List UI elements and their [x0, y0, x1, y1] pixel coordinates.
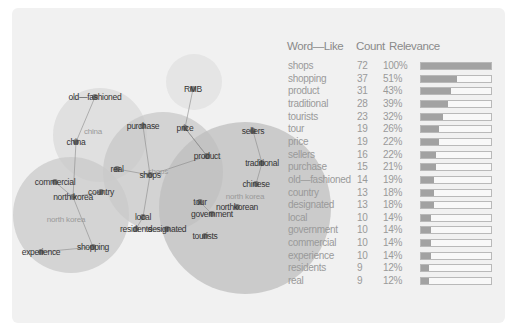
word-cell: designated	[288, 199, 334, 210]
word-cell: real	[288, 275, 303, 286]
relevance-cell: 14%	[383, 224, 402, 235]
relevance-cell: 14%	[383, 237, 402, 248]
word-cell: experience	[288, 250, 334, 261]
node-chinese[interactable]: chinese	[242, 179, 270, 189]
word-cell: product	[288, 85, 319, 96]
relevance-bar	[420, 100, 492, 108]
node-country[interactable]: country	[88, 187, 115, 197]
relevance-bar-fill	[421, 164, 436, 170]
relevance-cell: 22%	[383, 149, 402, 160]
word-cell: traditional	[288, 98, 328, 109]
relevance-bar-fill	[421, 227, 431, 233]
node-label: price	[177, 123, 194, 133]
count-cell: 14	[357, 174, 368, 185]
node-tourists[interactable]: tourists	[193, 231, 218, 241]
count-cell: 72	[357, 60, 368, 71]
cluster-label: north korea	[47, 215, 86, 224]
node-label: product	[194, 151, 221, 161]
relevance-bar-fill	[421, 265, 429, 271]
word-cell: purchase	[288, 161, 327, 172]
node-label: designated	[148, 224, 187, 234]
word-cell: shops	[288, 60, 313, 71]
cluster-circles	[13, 54, 331, 294]
node-local[interactable]: local	[135, 212, 151, 222]
word-cell: sellers	[288, 149, 315, 160]
node-tour[interactable]: tour	[193, 197, 207, 207]
relevance-bar	[420, 252, 492, 260]
count-cell: 16	[357, 149, 368, 160]
node-shopping[interactable]: shopping	[77, 242, 110, 252]
count-cell: 10	[357, 224, 368, 235]
relevance-cell: 21%	[383, 161, 402, 172]
count-cell: 10	[357, 237, 368, 248]
relevance-bar	[420, 239, 492, 247]
relevance-bar-fill	[421, 215, 431, 221]
node-government[interactable]: government	[191, 209, 234, 219]
node-sellers[interactable]: sellers	[242, 126, 265, 136]
relevance-bar-fill	[421, 240, 431, 246]
node-china[interactable]: china	[67, 137, 86, 147]
relevance-bar	[420, 163, 492, 171]
word-cell: government	[288, 224, 338, 235]
node-purchase[interactable]: purchase	[127, 121, 160, 131]
table-row: traditional2839%	[287, 98, 502, 110]
table-row: price1922%	[287, 136, 502, 148]
relevance-bar-fill	[421, 63, 491, 69]
node-experience[interactable]: experience	[22, 247, 61, 257]
node-shops[interactable]: shops	[139, 170, 160, 180]
relevance-cell: 43%	[383, 85, 402, 96]
relevance-cell: 14%	[383, 250, 402, 261]
count-cell: 10	[357, 250, 368, 261]
relevance-cell: 18%	[383, 199, 402, 210]
relevance-bar-fill	[421, 152, 436, 158]
node-old-fashioned[interactable]: old—fashioned	[69, 92, 122, 102]
relevance-bar	[420, 277, 492, 285]
relevance-bar	[420, 113, 492, 121]
node-label: china	[67, 137, 86, 147]
relevance-cell: 51%	[383, 73, 402, 84]
relevance-bar	[420, 62, 492, 70]
relevance-cell: 12%	[383, 262, 402, 273]
node-real[interactable]: real	[111, 164, 124, 174]
node-product[interactable]: product	[194, 151, 221, 161]
relevance-bar-fill	[421, 177, 434, 183]
node-label: sellers	[242, 126, 265, 136]
node-price[interactable]: price	[177, 123, 194, 133]
word-cell: tourists	[288, 111, 318, 122]
header-count: Count	[356, 40, 385, 52]
word-cell: residents	[288, 262, 326, 273]
relevance-cell: 19%	[383, 174, 402, 185]
relevance-bar-fill	[421, 139, 439, 145]
relevance-bar-fill	[421, 190, 434, 196]
node-commercial[interactable]: commercial	[35, 177, 76, 187]
count-cell: 10	[357, 212, 368, 223]
relevance-bar-fill	[421, 278, 429, 284]
table-header: Word—Like Count Relevance	[287, 40, 502, 54]
node-traditional[interactable]: traditional	[245, 158, 279, 168]
relevance-bar-fill	[421, 253, 431, 259]
relevance-bar	[420, 214, 492, 222]
relevance-bar-fill	[421, 88, 451, 94]
word-cell: price	[288, 136, 308, 147]
relevance-bar	[420, 176, 492, 184]
table-row: tourists2332%	[287, 111, 502, 123]
count-cell: 23	[357, 111, 368, 122]
relevance-bar	[420, 226, 492, 234]
node-label: real	[111, 164, 124, 174]
count-cell: 15	[357, 161, 368, 172]
relevance-cell: 14%	[383, 212, 402, 223]
table-row: government1014%	[287, 224, 502, 236]
node-rmb[interactable]: RMB	[184, 84, 203, 94]
node-label: chinese	[242, 179, 270, 189]
node-designated[interactable]: designated	[148, 224, 187, 234]
relevance-cell: 32%	[383, 111, 402, 122]
count-cell: 37	[357, 73, 368, 84]
count-cell: 19	[357, 136, 368, 147]
table-row: experience1014%	[287, 250, 502, 262]
table-row: purchase1521%	[287, 161, 502, 173]
relevance-cell: 26%	[383, 123, 402, 134]
table-row: shops72100%	[287, 60, 502, 72]
node-label: country	[88, 187, 115, 197]
relevance-cell: 18%	[383, 187, 402, 198]
node-label: commercial	[35, 177, 76, 187]
